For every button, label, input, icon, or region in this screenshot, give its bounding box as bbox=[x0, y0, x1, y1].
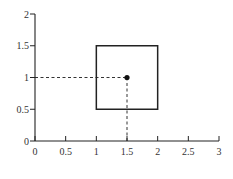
x-tick-label: 0 bbox=[33, 146, 38, 157]
x-tick-label: 1 bbox=[94, 146, 99, 157]
x-tick-label: 2 bbox=[155, 146, 160, 157]
data-point bbox=[124, 75, 129, 80]
x-tick-label: 0.5 bbox=[59, 146, 72, 157]
y-tick-label: 2 bbox=[24, 9, 29, 20]
y-tick-label: 0.5 bbox=[17, 104, 30, 115]
x-tick-label: 3 bbox=[217, 146, 222, 157]
points-layer bbox=[124, 75, 129, 80]
y-tick-label: 1 bbox=[24, 72, 29, 83]
chart: 00.511.522.53 00.511.52 bbox=[0, 0, 233, 179]
x-tick-label: 1.5 bbox=[121, 146, 134, 157]
y-tick-label: 1.5 bbox=[17, 40, 30, 51]
y-ticks: 00.511.52 bbox=[17, 9, 36, 147]
y-tick-label: 0 bbox=[24, 136, 29, 147]
x-tick-label: 2.5 bbox=[182, 146, 195, 157]
x-ticks: 00.511.522.53 bbox=[33, 136, 222, 157]
